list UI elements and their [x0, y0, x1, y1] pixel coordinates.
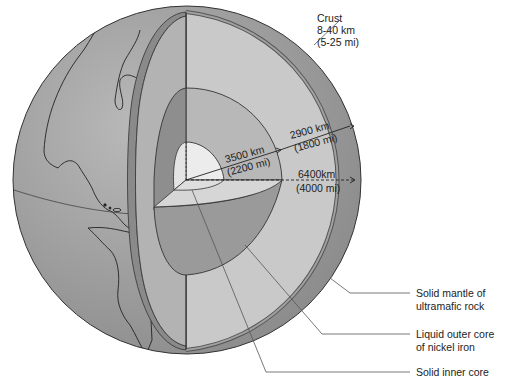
- earth-radius-mi: (4000 mi): [296, 182, 340, 194]
- inner-core-label: Solid inner core: [416, 366, 489, 378]
- outer-core-label-line2: of nickel iron: [416, 341, 475, 353]
- crust-range-mi: (5-25 mi): [317, 36, 359, 48]
- earth-radius-km: 6400km: [298, 168, 336, 180]
- mantle-label-line1: Solid mantle of: [416, 287, 486, 299]
- crust-range-km: 8-40 km: [317, 24, 355, 36]
- mantle-label-line2: ultramafic rock: [416, 300, 485, 312]
- earth-interior-diagram: Crust 8-40 km (5-25 mi) 2900 km (1800 mi…: [0, 0, 513, 386]
- outer-core-label-line1: Liquid outer core: [416, 328, 494, 340]
- crust-label: Crust: [317, 12, 342, 24]
